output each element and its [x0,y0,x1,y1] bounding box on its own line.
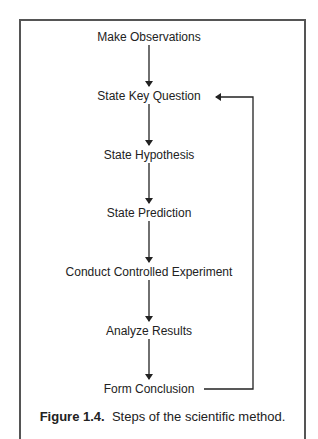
step-form-conclusion: Form Conclusion [0,382,298,396]
step-state-key-question: State Key Question [0,89,298,103]
step-state-prediction: State Prediction [0,206,298,220]
caption-text: Steps of the scientific method. [112,409,285,424]
step-analyze-results: Analyze Results [0,324,298,338]
step-make-observations: Make Observations [0,30,298,44]
step-state-hypothesis: State Hypothesis [0,148,298,162]
figure-label: Figure 1.4. [40,409,105,424]
step-conduct-controlled-experiment: Conduct Controlled Experiment [0,265,298,279]
figure-caption: Figure 1.4. Steps of the scientific meth… [19,409,306,425]
